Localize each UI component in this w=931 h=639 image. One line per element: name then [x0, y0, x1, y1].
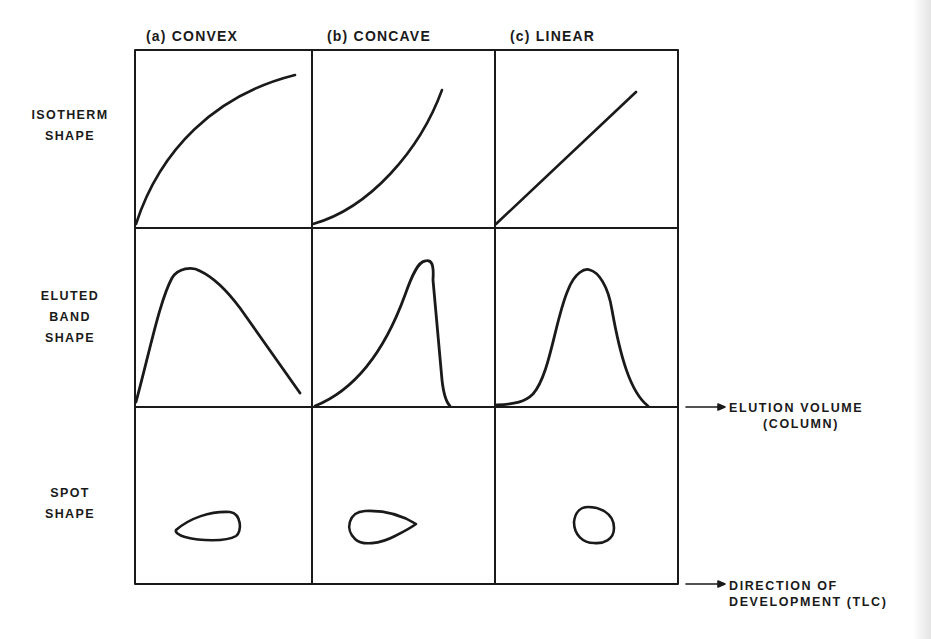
- convex-spot-shape: [176, 512, 240, 540]
- concave-spot-shape: [349, 511, 416, 543]
- concave-isotherm-curve: [313, 90, 442, 224]
- development-arrow-icon: [686, 581, 725, 587]
- fronting-band-peak: [136, 268, 300, 402]
- elution-arrow-icon: [686, 404, 725, 410]
- linear-spot-shape: [574, 507, 614, 543]
- convex-isotherm-curve: [136, 75, 295, 224]
- symmetric-band-peak: [497, 270, 648, 406]
- linear-isotherm-line: [496, 92, 636, 224]
- chromatography-shape-diagram: [0, 0, 931, 639]
- tailing-band-peak: [315, 261, 450, 406]
